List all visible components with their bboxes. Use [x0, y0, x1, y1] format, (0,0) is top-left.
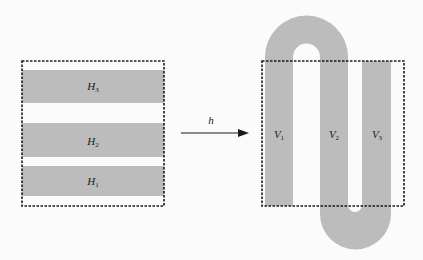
- horseshoe-map-diagram: H3 H2 H1 h V1 V2 V3: [0, 0, 423, 260]
- arrow-label: h: [208, 114, 214, 126]
- arrow-head-icon: [238, 129, 249, 137]
- map-arrow: h: [181, 114, 249, 137]
- right-image: V1 V2 V3: [262, 15, 404, 249]
- diagram-svg: H3 H2 H1 h V1 V2 V3: [0, 0, 423, 260]
- left-domain: H3 H2 H1: [22, 61, 164, 206]
